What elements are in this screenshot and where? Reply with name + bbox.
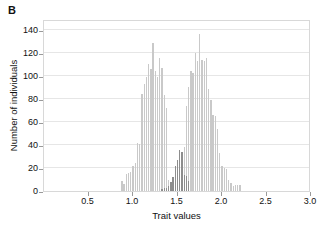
histogram-bar	[192, 73, 193, 191]
histogram-bar	[212, 115, 213, 191]
plot-area	[43, 20, 310, 192]
histogram-bar	[199, 34, 200, 191]
histogram-bar	[161, 68, 162, 191]
histogram-bar	[239, 185, 240, 191]
histogram-bar	[179, 150, 180, 191]
panel-letter: B	[8, 4, 16, 16]
histogram-bar	[206, 58, 207, 191]
histogram-bar	[172, 177, 173, 191]
histogram-bar	[175, 166, 176, 191]
histogram-bar	[152, 43, 153, 191]
histogram-bars	[44, 21, 309, 191]
figure-panel-b: B Number of individuals Trait values 020…	[0, 0, 326, 229]
x-tick-label: 1.5	[157, 196, 197, 206]
histogram-bar	[215, 116, 216, 191]
histogram-bar	[166, 108, 167, 191]
x-tick-mark	[88, 192, 89, 196]
histogram-bar	[195, 53, 196, 191]
histogram-bar	[135, 163, 136, 191]
histogram-bar	[164, 188, 165, 191]
x-tick-label: 2.5	[246, 196, 286, 206]
histogram-bar	[150, 69, 151, 191]
histogram-bar	[128, 173, 129, 191]
y-axis-title: Number of individuals	[8, 31, 19, 181]
histogram-bar	[188, 87, 189, 191]
y-tick-label: 0	[2, 186, 38, 196]
x-tick-mark	[310, 192, 311, 196]
histogram-bar	[184, 175, 185, 191]
histogram-bar	[228, 180, 229, 191]
x-tick-mark	[221, 192, 222, 196]
x-tick-label: 2.0	[201, 196, 241, 206]
histogram-bar	[186, 176, 187, 191]
histogram-bar	[190, 71, 191, 191]
histogram-bar	[155, 71, 156, 191]
histogram-bar	[139, 144, 140, 191]
x-tick-label: 0.5	[68, 196, 108, 206]
histogram-bar	[181, 152, 182, 191]
x-tick-mark	[266, 192, 267, 196]
histogram-bar	[226, 169, 227, 191]
histogram-bar	[164, 95, 165, 191]
histogram-bar	[197, 61, 198, 191]
histogram-bar	[210, 100, 211, 191]
histogram-bar	[132, 166, 133, 191]
histogram-bar	[137, 143, 138, 191]
x-tick-label: 3.0	[290, 196, 326, 206]
histogram-bar	[217, 129, 218, 191]
histogram-bar	[221, 166, 222, 191]
x-tick-label: 1.0	[112, 196, 152, 206]
histogram-bar	[170, 182, 171, 191]
histogram-bar	[177, 160, 178, 191]
histogram-bar	[141, 94, 142, 191]
x-tick-mark	[132, 192, 133, 196]
histogram-bar	[157, 77, 158, 191]
histogram-bar	[166, 188, 167, 191]
histogram-bar	[219, 153, 220, 191]
histogram-bar	[144, 84, 145, 191]
histogram-bar	[204, 61, 205, 191]
histogram-bar	[201, 60, 202, 191]
histogram-bar	[130, 172, 131, 191]
histogram-bar	[159, 58, 160, 191]
histogram-bar	[235, 185, 236, 191]
histogram-bar	[126, 174, 127, 191]
histogram-bar	[208, 89, 209, 191]
x-tick-mark	[177, 192, 178, 196]
histogram-bar	[161, 189, 162, 191]
histogram-bar	[121, 181, 122, 191]
histogram-bar	[148, 64, 149, 191]
histogram-bar	[168, 186, 169, 191]
y-tick-mark	[39, 192, 43, 193]
x-axis-title: Trait values	[43, 210, 310, 221]
histogram-bar	[230, 183, 231, 191]
histogram-bar	[233, 186, 234, 191]
histogram-bar	[237, 185, 238, 191]
histogram-bar	[123, 184, 124, 191]
histogram-bar	[146, 77, 147, 191]
histogram-bar	[188, 181, 189, 191]
histogram-bar	[224, 168, 225, 191]
